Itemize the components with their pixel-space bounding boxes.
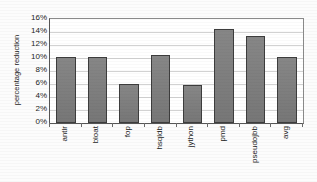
bar-series <box>50 19 303 123</box>
bar-bloat <box>88 57 108 123</box>
y-tick-label: 12% <box>20 40 47 48</box>
plot-area <box>49 18 304 124</box>
x-tick-label-avg: avg <box>282 126 290 139</box>
bar-slot <box>113 19 145 123</box>
y-tick-label: 10% <box>20 53 47 61</box>
x-label-slot: antlr <box>49 126 81 182</box>
bar-hsqldb <box>151 55 171 123</box>
bar-slot <box>240 19 272 123</box>
x-tick-label-fop: fop <box>124 126 132 137</box>
x-tick-mark <box>302 123 303 127</box>
bar-slot <box>177 19 209 123</box>
bar-slot <box>82 19 114 123</box>
y-tick-label: 0% <box>20 118 47 126</box>
x-tick-label-bloat: bloat <box>92 126 100 143</box>
x-tick-label-pseudojbb: pseudojbb <box>251 126 259 163</box>
x-tick-label-jython: jython <box>187 126 195 147</box>
bar-slot <box>50 19 82 123</box>
bar-pseudojbb <box>246 36 266 123</box>
y-axis-tick-labels: 0%2%4%6%8%10%12%14%16% <box>20 12 47 128</box>
x-tick-label-antlr: antlr <box>61 126 69 142</box>
x-axis-category-labels: antlrbloatfophsqldbjythonpmdpseudojbbavg <box>49 126 302 182</box>
x-label-slot: hsqldb <box>144 126 176 182</box>
bar-antlr <box>56 57 76 123</box>
y-tick-label: 8% <box>20 66 47 74</box>
x-tick-label-hsqldb: hsqldb <box>156 126 164 150</box>
x-label-slot: fop <box>112 126 144 182</box>
bar-avg <box>277 57 297 123</box>
bar-slot <box>271 19 303 123</box>
x-label-slot: jython <box>176 126 208 182</box>
x-tick-label-pmd: pmd <box>219 126 227 142</box>
y-tick-label: 6% <box>20 79 47 87</box>
bar-pmd <box>214 29 234 123</box>
bar-jython <box>183 85 203 123</box>
y-tick-label: 14% <box>20 27 47 35</box>
x-label-slot: avg <box>270 126 302 182</box>
x-label-slot: pmd <box>207 126 239 182</box>
bar-fop <box>119 84 139 123</box>
y-tick-label: 4% <box>20 92 47 100</box>
y-tick-label: 16% <box>20 14 47 22</box>
bar-slot <box>208 19 240 123</box>
bar-chart-figure: percentage reduction 0%2%4%6%8%10%12%14%… <box>0 0 317 182</box>
x-label-slot: pseudojbb <box>239 126 271 182</box>
y-tick-label: 2% <box>20 105 47 113</box>
x-label-slot: bloat <box>81 126 113 182</box>
bar-slot <box>145 19 177 123</box>
